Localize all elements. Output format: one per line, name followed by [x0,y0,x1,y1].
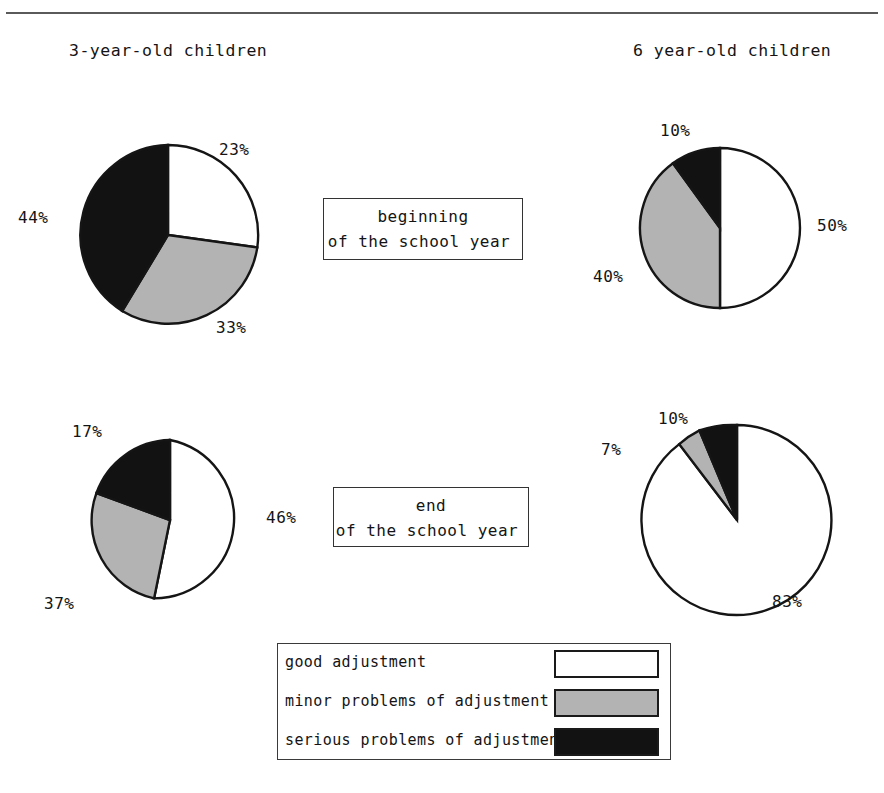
pie-label-3yo-end-minor: 37% [44,594,74,613]
pie-slice-good-adjustment [168,145,258,247]
pie-label-3yo-end-good: 46% [266,508,296,527]
caption-beginning-line2: of the school year [320,229,518,254]
pie-label-6yo-end-good: 83% [772,592,802,611]
legend-item-minor-problems: minor problems of adjustment [278,683,670,722]
pie-chart-6yo-beginning [640,148,800,308]
pie-chart-3yo-end-svg [90,440,250,600]
pie-slice-good-adjustment [720,148,800,308]
pie-chart-3yo-beginning [78,145,258,325]
legend-label-good-adjustment: good adjustment [285,653,426,671]
header-divider [6,12,878,14]
pie-chart-3yo-beginning-svg [78,145,258,325]
legend-swatch-serious-problems [554,728,659,756]
pie-label-6yo-beginning-minor: 40% [593,267,623,286]
pie-chart-6yo-end [642,425,832,615]
legend-label-minor-problems: minor problems of adjustment [285,692,549,710]
figure-page: 3-year-old children 6 year-old children … [0,0,884,793]
legend-item-good-adjustment: good adjustment [278,644,670,683]
pie-label-6yo-end-minor: 7% [601,440,621,459]
pie-label-6yo-beginning-good: 50% [817,216,847,235]
caption-end-line1: end [334,493,528,518]
pie-label-3yo-beginning-serious: 44% [18,208,48,227]
pie-label-3yo-beginning-minor: 33% [216,318,246,337]
pie-label-3yo-end-serious: 17% [72,422,102,441]
caption-end-line2: of the school year [330,518,524,543]
caption-end-of-school-year: end of the school year [333,487,529,547]
legend-label-serious-problems: serious problems of adjustment [285,731,568,749]
pie-label-6yo-beginning-serious: 10% [660,121,690,140]
pie-chart-6yo-beginning-svg [640,148,800,308]
legend-swatch-minor-problems [554,689,659,717]
caption-beginning-of-school-year: beginning of the school year [323,198,523,260]
legend-swatch-good-adjustment [554,650,659,678]
pie-label-3yo-beginning-good: 23% [219,140,249,159]
pie-chart-6yo-end-svg [642,425,832,615]
caption-beginning-line1: beginning [324,204,522,229]
pie-chart-3yo-end [90,440,250,600]
column-title-right: 6 year-old children [633,41,831,60]
legend-item-serious-problems: serious problems of adjustment [278,722,670,761]
pie-label-6yo-end-serious: 10% [658,409,688,428]
legend: good adjustment minor problems of adjust… [277,643,671,760]
column-title-left: 3-year-old children [69,41,267,60]
